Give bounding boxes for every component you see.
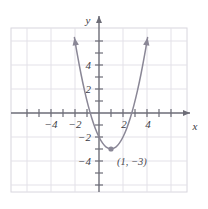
x-tick-label-neg2: −2: [69, 118, 82, 130]
graph-canvas: −4 −2 2 4 4 2 −2 −4 y x (1, −3): [0, 0, 208, 209]
y-axis-arrow: [96, 16, 102, 23]
y-tick-label-neg2: −2: [78, 131, 91, 143]
x-tick-label-4: 4: [145, 118, 151, 130]
y-tick-label-neg4: −4: [78, 155, 91, 167]
y-tick-label-2: 2: [86, 83, 92, 95]
x-axis-label: x: [192, 120, 198, 132]
parabola-graph-figure: −4 −2 2 4 4 2 −2 −4 y x (1, −3): [0, 0, 208, 209]
y-tick-label-4: 4: [86, 59, 92, 71]
y-axis-label: y: [85, 14, 91, 26]
x-tick-label-neg4: −4: [45, 118, 58, 130]
vertex-point-marker: [108, 146, 113, 151]
vertex-point-label: (1, −3): [117, 156, 147, 168]
